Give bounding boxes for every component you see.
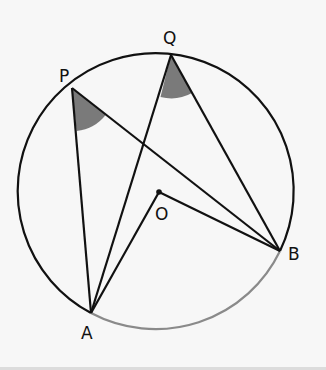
centre-point-O xyxy=(156,189,162,195)
segment-PB xyxy=(72,88,280,251)
label-O: O xyxy=(155,204,168,224)
segment-OA xyxy=(91,192,159,313)
circle-major-arc xyxy=(18,53,294,313)
segment-QA xyxy=(91,55,171,313)
label-P: P xyxy=(59,66,69,86)
label-B: B xyxy=(288,244,300,264)
segment-OB xyxy=(159,192,280,251)
circle-theorem-diagram: P Q O A B xyxy=(0,0,326,370)
label-Q: Q xyxy=(163,28,176,48)
segment-QB xyxy=(171,55,280,251)
label-A: A xyxy=(81,323,93,343)
